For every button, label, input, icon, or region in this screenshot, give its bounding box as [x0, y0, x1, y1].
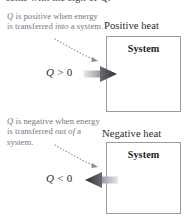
positive-heat-heading: Positive heat	[104, 20, 159, 31]
heat-out-arrow	[82, 170, 118, 190]
system-box-label: System	[107, 43, 180, 54]
negative-heat-heading: Negative heat	[102, 128, 161, 139]
heat-in-arrow	[84, 64, 118, 84]
system-box-label: System	[107, 149, 180, 160]
positive-heat-note: Q is positive when energy is transferred…	[7, 11, 105, 32]
note-text-before: is negative when energy is transferred	[7, 116, 100, 136]
q-symbol: Q	[46, 66, 54, 78]
note-emphasis: out of	[55, 126, 75, 136]
note-text-after: a system.	[69, 21, 104, 31]
note-emphasis: into	[55, 21, 69, 31]
q-symbol: Q	[46, 172, 54, 184]
cut-off-caption: sents with the sign of Q.	[6, 0, 178, 3]
heat-sign-convention-figure: sents with the sign of Q. Q is positive …	[0, 0, 184, 219]
